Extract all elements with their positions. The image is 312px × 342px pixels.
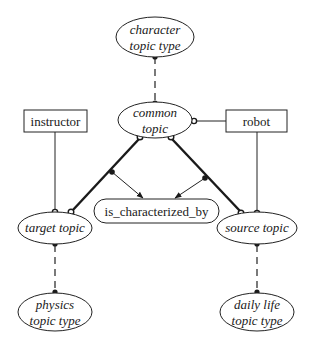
node-character-topic-type[interactable]: character topic type [116,17,194,57]
node-label: instructor [31,114,81,129]
node-label: daily life [234,297,280,312]
edge-robot-to-source [254,132,259,216]
node-label: target topic [25,220,85,235]
edge-instructor-to-target [52,132,57,215]
node-common-topic[interactable]: common topic [118,102,192,138]
edge-character-to-common [152,54,157,105]
diagram-canvas: character topic type common topic instru… [0,0,312,342]
node-instructor[interactable]: instructor [24,110,87,132]
node-target-topic[interactable]: target topic [18,212,92,244]
node-source-topic[interactable]: source topic [217,212,297,244]
node-label: common [133,105,177,120]
node-label: topic type [130,38,181,53]
node-physics-topic-type[interactable]: physics topic type [18,293,92,331]
node-is-characterized-by[interactable]: is_characterized_by [94,199,219,223]
edge-target-to-physics [52,241,57,294]
node-label: physics [35,297,74,312]
edge-source-to-daily-life [254,241,259,294]
node-label: topic type [232,313,283,328]
node-label: is_characterized_by [105,204,209,219]
node-daily-life-topic-type[interactable]: daily life topic type [220,293,294,331]
edge-left-to-is-characterized-by [109,169,143,198]
node-label: source topic [225,220,289,235]
node-label: topic [142,121,168,136]
edge-common-to-robot [191,118,226,123]
node-label: robot [243,114,271,129]
node-label: character [130,22,181,37]
node-label: topic type [30,313,81,328]
edge-right-to-is-characterized-by [175,175,208,198]
node-robot[interactable]: robot [226,110,287,132]
